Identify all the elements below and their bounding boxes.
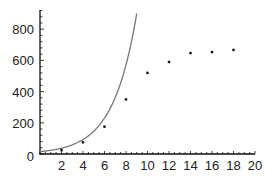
data-point — [189, 52, 191, 54]
data-point — [168, 61, 170, 63]
x-tick-label: 16 — [205, 158, 219, 173]
x-tick-label: 14 — [183, 158, 197, 173]
y-tick-label: 800 — [12, 22, 34, 37]
data-point — [211, 51, 213, 53]
data-point — [125, 98, 127, 100]
x-tick-label: 4 — [79, 158, 86, 173]
x-tick-label: 2 — [58, 158, 65, 173]
x-tick-label: 18 — [226, 158, 240, 173]
data-point — [232, 49, 234, 51]
data-point — [60, 149, 62, 151]
x-tick-label: 10 — [140, 158, 154, 173]
x-tick-label: 12 — [162, 158, 176, 173]
y-tick-label: 0 — [27, 149, 34, 164]
chart: 24681012141618200200400600800 — [0, 0, 276, 179]
y-tick-label: 400 — [12, 85, 34, 100]
x-tick-label: 8 — [122, 158, 129, 173]
data-point — [82, 141, 84, 143]
data-points — [60, 49, 234, 152]
model-curve — [40, 14, 137, 152]
x-tick-label: 6 — [101, 158, 108, 173]
y-tick-label: 600 — [12, 53, 34, 68]
x-tick-label: 20 — [248, 158, 262, 173]
axis-ticks — [40, 10, 255, 154]
y-tick-label: 200 — [12, 116, 34, 131]
data-point — [103, 126, 105, 128]
axes — [40, 10, 255, 155]
data-point — [146, 72, 148, 74]
